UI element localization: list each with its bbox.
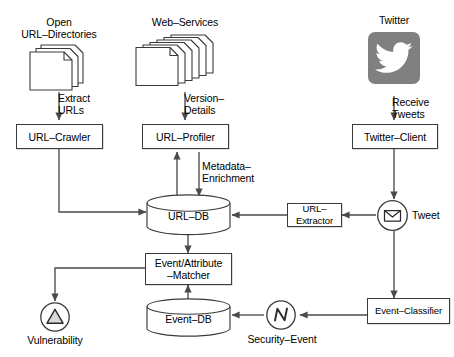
edge-label-metadata-enrichment: Metadata– Enrichment [202,160,272,184]
box-event-classifier[interactable]: Event–Classifier [367,298,450,324]
box-url-extractor[interactable]: URL–Extractor [287,203,342,227]
marker-vulnerability[interactable] [39,301,71,333]
box-event-classifier-label: Event–Classifier [375,305,442,317]
box-event-attribute-matcher-label: Event/Attribute –Matcher [155,257,222,281]
database-event-db-label: Event–DB [146,313,231,325]
box-url-extractor-label: URL–Extractor [288,203,341,227]
twitter-logo-tile [368,32,420,84]
database-url-db-label: URL–DB [146,210,231,222]
twitter-bird-icon [375,42,413,74]
marker-vulnerability-label: Vulnerability [12,334,98,346]
source-label-open-url-directories: Open URL–Directories [4,16,114,40]
box-url-profiler[interactable]: URL–Profiler [142,124,229,149]
edge-label-version-details: Version– Details [184,92,246,116]
document-stack-icon-directories [22,42,98,94]
marker-tweet[interactable] [376,199,409,232]
marker-security-event-label: Security–Event [238,333,326,345]
box-twitter-client[interactable]: Twitter–Client [352,124,438,149]
box-url-profiler-label: URL–Profiler [156,131,215,143]
database-url-db[interactable]: URL–DB [146,194,231,236]
edge-label-extract-urls: Extract URLs [58,92,114,116]
box-url-crawler-label: URL–Crawler [29,131,91,143]
database-event-db[interactable]: Event–DB [146,298,231,338]
edge-label-receive-tweets: Receive Tweets [392,96,454,120]
edge-matcher-to-vulnerability [55,268,145,301]
marker-tweet-label: Tweet [412,209,452,221]
box-event-attribute-matcher[interactable]: Event/Attribute –Matcher [145,253,232,285]
marker-security-event[interactable] [265,299,297,331]
edge-crawler-to-urldb [59,148,146,212]
source-label-twitter: Twitter [355,14,433,26]
box-url-crawler[interactable]: URL–Crawler [16,124,103,149]
box-twitter-client-label: Twitter–Client [364,131,426,143]
document-stack-icon-webservices [126,32,234,94]
source-label-web-services: Web–Services [131,16,239,28]
